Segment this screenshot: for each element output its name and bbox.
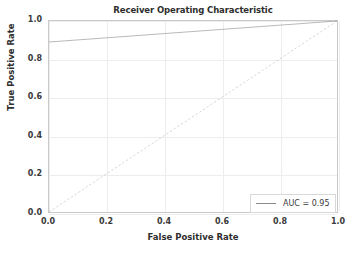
y-axis-label: True Positive Rate (6, 12, 16, 122)
legend-label-auc: AUC = 0.95 (283, 199, 330, 208)
y-tick-label: 1.0 (14, 15, 42, 24)
y-tick-label: 0.4 (14, 131, 42, 140)
x-tick-label: 0.4 (144, 217, 184, 226)
roc-chart-figure: Receiver Operating Characteristic 0.00.2… (0, 0, 361, 261)
legend-line-swatch (256, 203, 276, 204)
y-tick-label: 0.2 (14, 169, 42, 178)
roc-curve-line (49, 21, 337, 42)
y-tick-label: 0.8 (14, 54, 42, 63)
x-tick-label: 0.8 (260, 217, 300, 226)
x-axis-label: False Positive Rate (48, 232, 338, 242)
x-tick-label: 0.6 (202, 217, 242, 226)
gridline-vertical (339, 21, 340, 212)
chance-diagonal-line (49, 21, 337, 212)
x-tick-label: 1.0 (318, 217, 358, 226)
x-tick-label: 0.2 (86, 217, 126, 226)
x-tick-label: 0.0 (28, 217, 68, 226)
gridline-horizontal (49, 214, 337, 215)
curve-layer (49, 21, 337, 212)
y-tick-label: 0.0 (14, 208, 42, 217)
legend-box: AUC = 0.95 (250, 194, 336, 213)
y-tick-label: 0.6 (14, 92, 42, 101)
chart-title: Receiver Operating Characteristic (48, 5, 338, 15)
plot-area (48, 20, 338, 213)
